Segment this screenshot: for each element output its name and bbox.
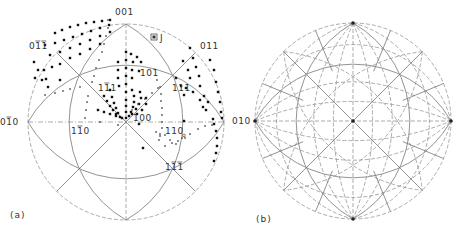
data-dot <box>34 77 36 79</box>
data-cross <box>197 128 199 130</box>
data-dot <box>72 36 74 38</box>
data-dot <box>93 21 95 23</box>
data-cross <box>169 139 171 141</box>
caption-b: (b) <box>256 214 272 224</box>
data-cross <box>62 90 64 92</box>
data-dot <box>132 106 134 108</box>
data-dot <box>220 111 222 113</box>
data-dot <box>118 85 120 87</box>
data-dot <box>128 115 130 117</box>
data-cross <box>105 35 107 37</box>
pole-label: 010 <box>0 117 19 127</box>
data-dot <box>41 79 43 81</box>
data-dot <box>59 79 61 81</box>
data-dot <box>192 57 194 59</box>
data-dot <box>125 83 127 85</box>
caption-a: (a) <box>10 210 26 220</box>
data-dot <box>125 105 127 107</box>
data-dot <box>115 115 117 117</box>
data-dot <box>106 100 108 102</box>
data-dot <box>125 67 127 69</box>
data-cross <box>98 59 100 61</box>
data-cross <box>161 107 163 109</box>
data-dot <box>99 27 101 29</box>
data-dot <box>109 31 111 33</box>
data-dot <box>131 89 133 91</box>
data-dot <box>217 91 219 93</box>
data-dot <box>215 130 217 132</box>
data-dot <box>97 109 99 111</box>
data-dot <box>203 95 205 97</box>
data-dot <box>209 59 211 61</box>
data-dot <box>77 24 79 26</box>
pole-marker <box>449 119 453 123</box>
data-dot <box>132 61 134 63</box>
data-cross <box>93 75 95 77</box>
data-dot <box>140 97 142 99</box>
data-cross <box>86 101 88 103</box>
pole-marker <box>253 119 257 123</box>
data-dot <box>101 20 103 22</box>
data-dot <box>99 35 101 37</box>
data-dot <box>49 54 51 56</box>
data-dot <box>187 69 189 71</box>
data-dot <box>117 77 119 79</box>
pole-marker <box>351 217 355 221</box>
pole-marker <box>351 119 355 123</box>
data-dot <box>125 99 127 101</box>
data-dot <box>131 69 133 71</box>
data-dot <box>125 117 127 119</box>
data-dot <box>47 86 49 88</box>
data-dot <box>45 78 47 80</box>
data-dot <box>199 99 201 101</box>
data-dot <box>69 47 71 49</box>
data-dot <box>90 30 92 32</box>
data-cross <box>107 19 109 21</box>
data-dot <box>215 81 217 83</box>
data-cross <box>87 95 89 97</box>
data-dot <box>189 77 191 79</box>
data-cross <box>103 43 105 45</box>
data-dot <box>103 95 105 97</box>
data-dot <box>125 51 127 53</box>
data-cross <box>131 109 133 111</box>
data-dot <box>69 26 71 28</box>
data-cross <box>44 94 46 96</box>
data-dot <box>125 75 127 77</box>
data-dot <box>139 91 141 93</box>
stereogram-figure: 001011011111101111010100110110o111J 010 … <box>0 0 461 236</box>
data-dot <box>205 109 207 111</box>
data-dot <box>112 109 114 111</box>
data-dot <box>141 109 143 111</box>
data-dot <box>117 69 119 71</box>
j-marker-dot <box>153 36 156 39</box>
pole-label: 111 <box>98 83 117 93</box>
data-dot <box>37 69 39 71</box>
data-dot <box>79 53 81 55</box>
data-cross <box>159 135 161 137</box>
pole-label: 010 <box>232 116 251 126</box>
data-dot <box>81 33 83 35</box>
data-dot <box>136 56 138 58</box>
data-dot <box>133 101 135 103</box>
data-dot <box>113 102 115 104</box>
data-dot <box>140 61 142 63</box>
data-dot <box>59 63 61 65</box>
data-cross <box>151 92 153 94</box>
data-dot <box>199 85 201 87</box>
pole-marker <box>351 21 355 25</box>
data-dot <box>117 61 119 63</box>
data-dot <box>63 39 65 41</box>
data-cross <box>159 133 161 135</box>
data-dot <box>69 57 71 59</box>
data-dot <box>182 60 184 62</box>
data-cross <box>156 79 158 81</box>
pole-label: 101 <box>140 68 159 78</box>
data-dot <box>198 75 200 77</box>
data-cross <box>85 109 87 111</box>
data-dot <box>131 77 133 79</box>
data-dot <box>99 43 101 45</box>
data-dot <box>89 39 91 41</box>
data-cross <box>189 133 191 135</box>
data-dot <box>142 147 144 149</box>
